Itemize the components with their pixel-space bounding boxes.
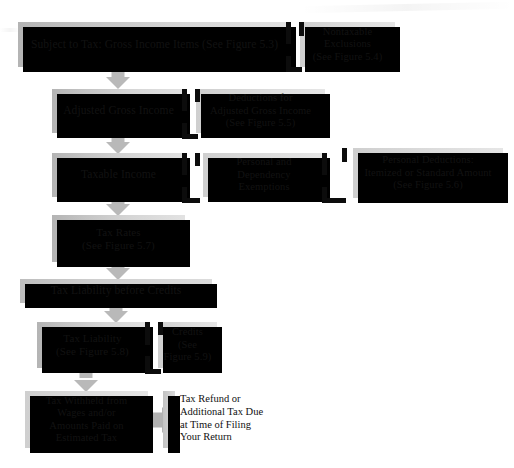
node-tax-refund-label: Tax Refund or Additional Tax Due at Time…: [180, 393, 300, 444]
connector-agi-to-deductions: [182, 89, 204, 139]
node-nontaxable-exclusions[interactable]: Nontaxable Exclusions (See Figure 5.4): [300, 22, 395, 67]
node-tax-liability-label: Tax Liability (See Figure 5.8): [52, 332, 133, 358]
node-personal-deductions-label: Personal Deductions: Itemized or Standar…: [360, 154, 495, 191]
node-gross-income-label: Subject to Tax: Gross Income Items (See …: [27, 38, 282, 52]
connector-exemptions-to-deductions: [322, 153, 354, 203]
node-personal-deductions[interactable]: Personal Deductions: Itemized or Standar…: [353, 148, 503, 198]
node-tax-withheld-label: Tax Withheld from Wages and/or Amounts P…: [42, 395, 131, 445]
node-taxable-income[interactable]: Taxable Income: [52, 153, 185, 197]
scan-artifact-top: [300, 2, 514, 13]
flowchart-figure: Subject to Tax: Gross Income Items (See …: [0, 0, 514, 468]
node-adjusted-gross-income[interactable]: Adjusted Gross Income: [52, 89, 185, 133]
node-tax-refund-rail: [163, 391, 175, 448]
node-taxable-income-label: Taxable Income: [77, 168, 160, 182]
scan-artifact-left: [0, 28, 20, 32]
node-adjusted-gross-income-label: Adjusted Gross Income: [59, 104, 178, 118]
node-credits-label: Credits (See Figure 5.9): [160, 326, 216, 363]
node-tax-liability-before-credits-label: Tax Liability before Credits: [47, 284, 186, 298]
node-tax-liability[interactable]: Tax Liability (See Figure 5.8): [37, 322, 148, 368]
node-tax-rates-label: Tax Rates (See Figure 5.7): [78, 226, 159, 252]
node-personal-exemptions[interactable]: Personal and Dependency Exemptions: [203, 153, 325, 197]
connector-taxable-to-exemptions: [182, 153, 204, 203]
node-tax-liability-before-credits[interactable]: Tax Liability before Credits: [20, 279, 212, 303]
node-personal-exemptions-label: Personal and Dependency Exemptions: [232, 156, 295, 193]
node-tax-withheld[interactable]: Tax Withheld from Wages and/or Amounts P…: [25, 391, 148, 448]
node-deductions-for-agi-label: Deductions for Adjusted Gross Income (Se…: [206, 92, 315, 129]
node-deductions-for-agi[interactable]: Deductions for Adjusted Gross Income (Se…: [196, 89, 325, 133]
node-tax-rates[interactable]: Tax Rates (See Figure 5.7): [52, 215, 185, 262]
node-gross-income[interactable]: Subject to Tax: Gross Income Items (See …: [18, 22, 291, 67]
node-nontaxable-exclusions-label: Nontaxable Exclusions (See Figure 5.4): [309, 26, 387, 63]
connector-gross-to-nontaxable: [286, 22, 308, 72]
connector-liability-to-credits: [145, 322, 167, 374]
